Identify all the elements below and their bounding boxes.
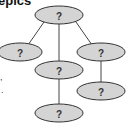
node-label: ? xyxy=(98,87,104,98)
node-right-grandchild: ? xyxy=(77,82,125,100)
node-right-child: ? xyxy=(77,43,125,61)
node-label: ? xyxy=(56,11,62,22)
node-left-child: ? xyxy=(0,43,42,61)
node-label: ? xyxy=(56,66,62,77)
node-label: ? xyxy=(56,109,62,120)
edge-root-right xyxy=(76,22,92,45)
node-label: ? xyxy=(98,48,104,59)
node-middle-grandchild: ? xyxy=(35,104,83,122)
node-root: ? xyxy=(35,6,83,24)
node-middle-child: ? xyxy=(35,61,83,79)
edge-root-left xyxy=(28,22,44,45)
tree-diagram: ? ? ? ? ? ? xyxy=(0,0,133,125)
node-label: ? xyxy=(17,48,23,59)
